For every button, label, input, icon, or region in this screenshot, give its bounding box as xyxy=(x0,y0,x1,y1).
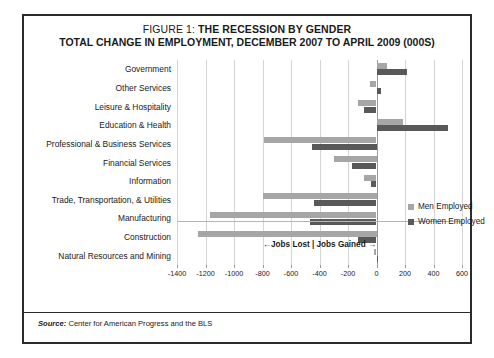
x-axis-title: ←Jobs Lost | Jobs Gained → xyxy=(177,240,462,249)
y-axis-category-labels: GovernmentOther ServicesLeisure & Hospit… xyxy=(24,60,177,265)
plot-area xyxy=(177,60,462,265)
legend-item-women: Women Employed xyxy=(408,217,485,226)
bar-women xyxy=(377,69,408,75)
y-axis-label: Manufacturing xyxy=(21,213,171,223)
bar-men xyxy=(370,81,376,87)
figure-subtitle: TOTAL CHANGE IN EMPLOYMENT, DECEMBER 200… xyxy=(24,36,470,49)
x-axis-tick xyxy=(462,265,463,268)
source-note: Source: Center for American Progress and… xyxy=(38,319,212,328)
x-axis-tick xyxy=(234,265,235,268)
y-axis-label: Leisure & Hospitality xyxy=(21,102,171,112)
legend-swatch-men-icon xyxy=(408,204,414,210)
gridline xyxy=(177,60,178,265)
source-text: Center for American Progress and the BLS xyxy=(68,319,212,328)
source-label: Source: xyxy=(38,319,66,328)
bar-women xyxy=(371,181,377,187)
y-axis-label: Education & Health xyxy=(21,120,171,130)
x-axis-tick-label: -1000 xyxy=(225,269,243,278)
bar-men xyxy=(377,119,403,125)
x-axis-tick xyxy=(263,265,264,268)
x-axis-tick-label: -200 xyxy=(341,269,355,278)
bar-men xyxy=(377,63,388,69)
x-axis-tick-label: 400 xyxy=(428,269,440,278)
bar-women xyxy=(364,107,377,113)
bar-men xyxy=(263,193,377,199)
y-axis-label: Government xyxy=(21,64,171,74)
source-divider xyxy=(24,312,470,313)
bar-men xyxy=(210,212,377,218)
bar-men xyxy=(264,137,377,143)
bar-men xyxy=(334,156,377,162)
x-axis-tick-label: -600 xyxy=(284,269,298,278)
x-axis-tick xyxy=(320,265,321,268)
chart-legend: Men Employed Women Employed xyxy=(408,202,485,232)
gridline xyxy=(405,60,406,265)
x-axis-tick-label: 200 xyxy=(399,269,411,278)
legend-swatch-women-icon xyxy=(408,219,414,225)
figure-card: FIGURE 1: THE RECESSION BY GENDER TOTAL … xyxy=(22,14,472,344)
x-axis-tick xyxy=(348,265,349,268)
x-axis-tick-label: -1200 xyxy=(196,269,214,278)
y-axis-label: Trade, Transportation, & Utilities xyxy=(21,195,171,205)
bar-women xyxy=(377,125,448,131)
title-line-1: FIGURE 1: THE RECESSION BY GENDER xyxy=(24,23,470,36)
y-axis-label: Information xyxy=(21,176,171,186)
legend-label-women: Women Employed xyxy=(418,217,485,226)
y-axis-label: Construction xyxy=(21,232,171,242)
figure-title: THE RECESSION BY GENDER xyxy=(198,23,351,35)
x-axis-tick-label: -800 xyxy=(255,269,269,278)
legend-label-men: Men Employed xyxy=(418,202,473,211)
bar-women xyxy=(352,163,376,169)
chart-plot-wrapper: GovernmentOther ServicesLeisure & Hospit… xyxy=(24,60,474,295)
figure-title-block: FIGURE 1: THE RECESSION BY GENDER TOTAL … xyxy=(24,23,470,49)
y-axis-label: Other Services xyxy=(21,83,171,93)
bar-men xyxy=(198,231,376,237)
y-axis-label: Financial Services xyxy=(21,158,171,168)
x-axis-tick xyxy=(405,265,406,268)
x-axis-tick xyxy=(206,265,207,268)
x-axis-tick xyxy=(291,265,292,268)
bar-women xyxy=(377,256,378,262)
bar-men xyxy=(364,175,377,181)
legend-item-men: Men Employed xyxy=(408,202,485,211)
gridline xyxy=(434,60,435,265)
bar-men xyxy=(358,100,377,106)
y-axis-label: Natural Resources and Mining xyxy=(21,251,171,261)
x-axis-tick xyxy=(177,265,178,268)
x-axis-tick-label: 600 xyxy=(456,269,468,278)
x-axis-tick-label: -400 xyxy=(312,269,326,278)
x-axis-tick xyxy=(377,265,378,268)
bar-women xyxy=(312,144,376,150)
bar-women xyxy=(314,200,377,206)
x-axis-tick xyxy=(434,265,435,268)
bar-men xyxy=(374,249,376,255)
x-axis-tick-label: 0 xyxy=(375,269,379,278)
x-axis-tick-label: -1400 xyxy=(168,269,186,278)
bar-women xyxy=(377,88,381,94)
gridline xyxy=(462,60,463,265)
figure-number: FIGURE 1: xyxy=(143,23,195,35)
y-axis-label: Professional & Business Services xyxy=(21,139,171,149)
